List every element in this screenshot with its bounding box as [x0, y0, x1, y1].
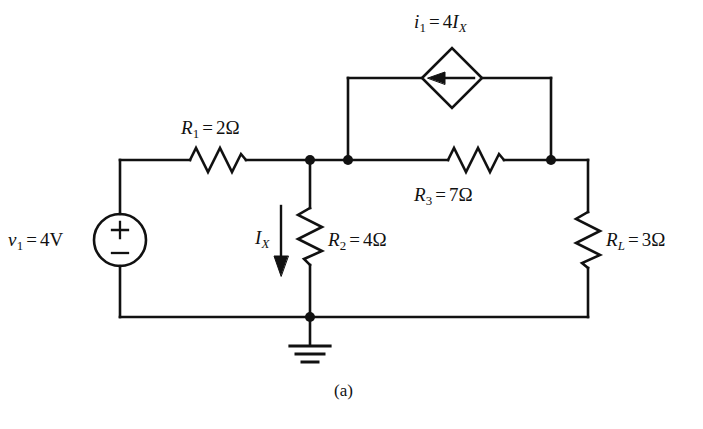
label-rl-subscript: L: [618, 238, 625, 253]
resistor-r1-symbol: [190, 148, 246, 172]
node-dot-ground: [305, 312, 315, 322]
label-r3-equals: =: [435, 184, 446, 205]
dependent-source-arrow-head: [428, 72, 445, 84]
label-resistor-r2: R2=4Ω: [328, 230, 387, 253]
label-r1-symbol: R: [181, 117, 193, 138]
figure-caption: (a): [334, 381, 353, 401]
label-resistor-rl: RL=3Ω: [606, 230, 665, 253]
label-rl-equals: =: [628, 229, 639, 250]
label-r3-value: 7Ω: [449, 184, 473, 205]
label-r1-equals: =: [202, 117, 213, 138]
label-r3-subscript: 3: [426, 193, 432, 208]
label-rl-symbol: R: [606, 229, 618, 250]
current-arrow-ix-head: [274, 256, 288, 276]
label-i1-subscript: 1: [420, 20, 426, 35]
label-r2-equals: =: [349, 229, 360, 250]
label-resistor-r3: R3=7Ω: [414, 185, 473, 208]
node-dot-b: [343, 155, 353, 165]
label-ix-subscript: X: [262, 236, 270, 251]
label-v1-symbol: v: [8, 229, 16, 250]
label-i1-symbol: i: [414, 11, 419, 32]
label-r2-symbol: R: [328, 229, 340, 250]
resistor-rl-symbol: [576, 212, 600, 268]
label-i1-equals: =: [429, 11, 440, 32]
label-r1-value: 2Ω: [216, 117, 240, 138]
circuit-diagram-figure: i1=4IX R1=2Ω R3=7Ω v1=4V IX R2=4Ω RL=3Ω …: [0, 0, 703, 429]
node-dot-a: [305, 155, 315, 165]
resistor-r3-symbol: [448, 148, 504, 172]
label-current-ix: IX: [255, 228, 269, 251]
label-voltage-source-v1: v1=4V: [8, 230, 63, 253]
source-plus-glyph: [112, 222, 128, 238]
label-rl-value: 3Ω: [642, 229, 666, 250]
label-r3-symbol: R: [414, 184, 426, 205]
label-dependent-source-i1: i1=4IX: [414, 12, 467, 35]
label-ix-symbol: I: [255, 227, 261, 248]
label-r2-subscript: 2: [340, 238, 346, 253]
label-v1-value: 4V: [40, 229, 63, 250]
label-r2-value: 4Ω: [363, 229, 387, 250]
label-resistor-r1: R1=2Ω: [181, 118, 240, 141]
label-i1-control-subscript: X: [459, 20, 467, 35]
label-i1-coefficient: 4: [443, 11, 453, 32]
label-r1-subscript: 1: [193, 126, 199, 141]
resistor-r2-symbol: [298, 208, 322, 265]
node-dot-c: [546, 155, 556, 165]
label-i1-control-symbol: I: [452, 11, 458, 32]
label-v1-equals: =: [26, 229, 37, 250]
label-v1-subscript: 1: [17, 238, 23, 253]
schematic-drawing: [0, 0, 703, 429]
